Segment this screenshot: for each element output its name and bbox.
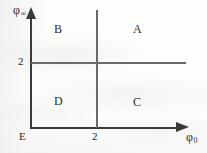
vertical-reference-line [96,10,98,128]
y-axis-line [30,16,32,129]
region-label-b: B [54,23,62,35]
horizontal-reference-line [31,62,186,64]
y-axis-title: φ∞ [13,4,26,18]
region-label-c: C [133,96,141,108]
origin-label: E [19,131,26,142]
region-label-a: A [133,23,142,35]
x-axis-tick-label: 2 [92,131,98,142]
y-axis-tick-label: 2 [18,56,24,67]
x-axis-line [30,127,180,129]
quadrant-diagram-figure: B A D C 2 2 E φ∞ φ0 [0,0,207,153]
y-axis-subscript: ∞ [20,9,26,18]
up-arrow-icon [26,7,36,19]
x-axis-title: φ0 [186,131,197,145]
x-axis-subscript: 0 [193,136,198,145]
x-axis-symbol: φ [186,130,193,144]
y-axis-symbol: φ [13,3,20,17]
region-label-d: D [54,95,63,107]
